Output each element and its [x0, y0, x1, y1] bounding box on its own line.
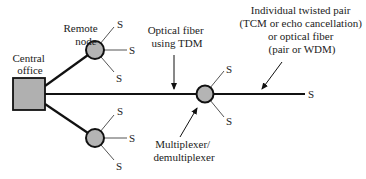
fiber-access-network-diagram: Central office Remote node S S S S S S O…: [0, 0, 366, 179]
subscriber-label: S: [308, 88, 314, 100]
twisted-pair-label: Individual twisted pair (TCM or echo can…: [239, 4, 364, 56]
optical-fiber-label: Optical fiber using TDM: [148, 24, 207, 49]
feeder-line-lower: [45, 104, 88, 133]
feeder-line-upper: [45, 55, 88, 86]
subscriber-label: S: [116, 72, 122, 84]
multiplexer-arrow: [180, 108, 197, 137]
remote-node-label: Remote node: [64, 22, 101, 47]
subscriber-label: S: [117, 18, 123, 30]
twisted-pair-arrow: [262, 62, 282, 89]
central-office-label: Central office: [12, 52, 47, 76]
multiplexer-label: Multiplexer/ demultiplexer: [153, 138, 214, 163]
subscriber-label: S: [117, 105, 123, 117]
subscriber-label: S: [226, 115, 232, 127]
subscriber-label: S: [129, 132, 135, 144]
subscriber-label: S: [226, 63, 232, 75]
subscriber-label: S: [116, 160, 122, 172]
subscriber-label: S: [129, 44, 135, 56]
remote-node-lower: [86, 129, 104, 147]
central-office-box: [13, 78, 45, 110]
multiplexer-node: [197, 86, 214, 103]
